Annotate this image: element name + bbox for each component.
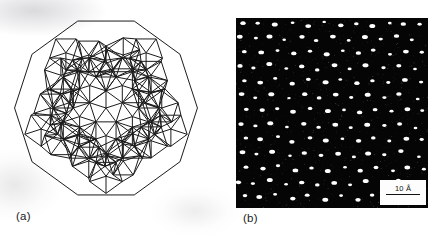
micrograph-noise [352,111,353,112]
atomic-column-dot [244,166,249,169]
micrograph-noise [240,40,241,41]
micrograph-noise [427,129,428,130]
tiling-edge [106,108,116,122]
atomic-column-dot [404,166,410,170]
tiling-edge [122,89,132,103]
micrograph-noise [402,146,403,147]
atomic-column-dot [397,122,402,126]
micrograph-noise [257,35,258,36]
micrograph-noise [358,152,359,153]
micrograph-noise [344,87,345,88]
micrograph-noise [426,87,427,88]
micrograph-noise [291,81,292,82]
micrograph-noise [302,75,303,76]
micrograph-noise [279,202,280,203]
micrograph-noise [303,131,304,132]
micrograph-noise [313,130,314,131]
micrograph-noise [299,186,300,187]
tiling-edge [140,50,142,62]
micrograph-noise [389,164,390,165]
micrograph-noise [314,156,315,157]
micrograph-noise [326,58,327,59]
micrograph-noise [345,189,346,190]
micrograph-noise [318,88,319,89]
atomic-column-dot [416,98,420,101]
micrograph-noise [402,133,403,134]
atomic-column-dot [364,123,370,127]
micrograph-noise [264,113,265,114]
micrograph-noise [240,28,241,29]
atomic-column-dot [420,51,424,54]
atomic-column-dot [314,39,319,42]
micrograph-noise [421,206,422,207]
micrograph-noise [253,25,254,26]
micrograph-noise [411,168,412,169]
micrograph-noise [343,29,344,30]
micrograph-noise [323,58,324,59]
micrograph-noise [299,184,300,185]
micrograph-noise [267,99,268,100]
micrograph-noise [400,59,401,60]
micrograph-noise [419,67,420,68]
atomic-column-dot [260,108,265,112]
tiling-edge [146,61,161,70]
micrograph-noise [303,107,304,108]
micrograph-noise [312,99,313,100]
atomic-column-dot [260,167,265,171]
micrograph-noise [279,35,280,36]
micrograph-noise [282,162,283,163]
atomic-column-dot [339,194,343,197]
micrograph-noise [408,92,409,93]
micrograph-noise [355,21,356,22]
atomic-column-dot [284,183,288,186]
micrograph-noise [322,25,323,26]
tiling-edge [123,161,133,175]
atomic-column-dot [382,96,386,99]
micrograph-noise [330,142,331,143]
tiling-edge [90,103,106,108]
tiling-edge [106,103,122,108]
micrograph-noise [328,122,329,123]
micrograph-noise [253,149,254,150]
micrograph-noise [372,177,373,178]
micrograph-noise [248,33,249,34]
micrograph-noise [266,90,267,91]
atomic-column-dot [363,63,369,67]
tiling-edge [96,108,106,122]
micrograph-noise [329,31,330,32]
atomic-column-dot [293,168,299,172]
micrograph-noise [376,97,377,98]
micrograph-noise [371,61,372,62]
micrograph-noise [262,66,263,67]
micrograph-noise [425,110,426,111]
micrograph-noise [337,104,338,105]
micrograph-noise [311,131,312,132]
micrograph-noise [261,77,262,78]
tiling-edge [66,39,76,53]
micrograph-noise [427,97,428,98]
panel-a-tiling: (a) [0,0,215,235]
atomic-column-dot [347,39,351,42]
atomic-column-dot [319,154,324,157]
micrograph-noise [254,157,255,158]
micrograph-noise [301,111,302,112]
atomic-column-dot [237,64,242,68]
micrograph-noise [313,138,314,139]
tiling-edge [34,94,40,113]
atomic-column-dot [343,166,347,169]
micrograph-noise [340,119,341,120]
micrograph-noise [413,113,414,114]
micrograph-noise [418,166,419,167]
atomic-column-dot [382,153,386,156]
micrograph-noise [387,31,388,32]
micrograph-noise [362,199,363,200]
micrograph-noise [313,24,314,25]
micrograph-noise [302,178,303,179]
micrograph-noise [320,113,321,114]
micrograph-noise [384,160,385,161]
atomic-column-dot [315,183,320,186]
micrograph-noise [386,106,387,107]
micrograph-noise [314,119,315,120]
micrograph-noise [345,136,346,137]
micrograph-noise [424,51,425,52]
